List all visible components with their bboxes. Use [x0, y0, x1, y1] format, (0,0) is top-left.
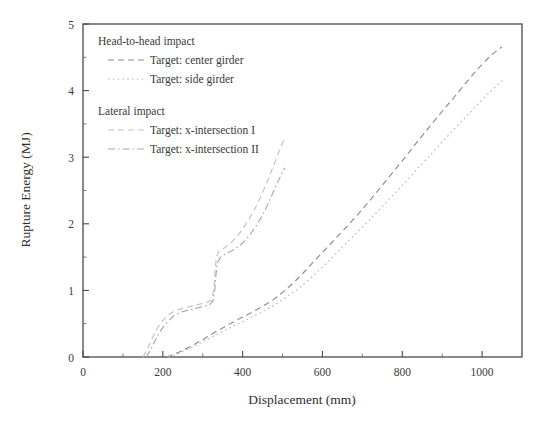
y-tick-label: 3: [68, 152, 74, 164]
y-axis-tick-labels: 012345: [68, 19, 74, 364]
y-tick-label: 5: [68, 19, 74, 31]
y-axis-ticks: [83, 24, 89, 357]
x-axis-tick-labels: 02004006008001000: [80, 366, 494, 378]
rupture-energy-chart: 02004006008001000 012345 Displacement (m…: [0, 0, 550, 429]
y-tick-label: 0: [68, 352, 74, 364]
chart-figure: 02004006008001000 012345 Displacement (m…: [0, 0, 550, 429]
series-line-1: [167, 47, 502, 357]
x-tick-label: 200: [154, 366, 172, 378]
series-line-3: [143, 137, 286, 357]
x-tick-label: 800: [394, 366, 412, 378]
x-tick-label: 400: [234, 366, 252, 378]
y-tick-label: 1: [68, 285, 74, 297]
legend-entry-label: Target: side girder: [150, 73, 234, 86]
x-axis-title: Displacement (mm): [248, 392, 356, 407]
legend-entry-label: Target: center girder: [150, 54, 244, 67]
x-tick-label: 1000: [471, 366, 494, 378]
chart-legend: Head-to-head impactTarget: center girder…: [98, 35, 259, 156]
x-tick-label: 600: [314, 366, 332, 378]
legend-entry-label: Target: x-intersection I: [150, 124, 255, 137]
legend-entry-label: Target: x-intersection II: [150, 143, 259, 156]
series-line-2: [169, 81, 502, 357]
legend-group-heading: Head-to-head impact: [98, 35, 196, 48]
plot-frame: [83, 24, 522, 357]
legend-group-heading: Lateral impact: [98, 105, 166, 118]
y-tick-label: 2: [68, 218, 74, 230]
data-series-group: [143, 47, 502, 357]
y-tick-label: 4: [68, 85, 74, 97]
x-tick-label: 0: [80, 366, 86, 378]
y-axis-title: Rupture Energy (MJ): [18, 132, 33, 247]
